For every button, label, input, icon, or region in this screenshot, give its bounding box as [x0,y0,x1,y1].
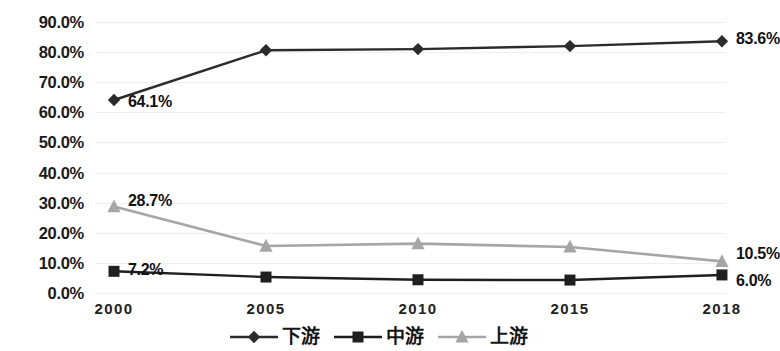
legend-item-label: 上游 [490,327,528,346]
gridline [96,52,726,53]
y-axis-tick-label: 40.0% [39,163,84,182]
y-axis-tick-label: 90.0% [39,13,84,32]
x-axis-tick-label: 2010 [398,300,437,317]
gridline [96,263,726,264]
y-axis-tick-label: 20.0% [39,223,84,242]
triangle-marker-icon [436,328,488,346]
gridline [96,112,726,113]
x-axis-tick-label: 2005 [246,300,285,317]
square-marker-icon [332,328,384,346]
legend-item-square[interactable]: 中游 [332,327,424,346]
legend-item-diamond[interactable]: 下游 [228,327,320,346]
data-point-label: 64.1% [128,93,172,111]
gridline [96,233,726,234]
y-axis-tick-label: 0.0% [48,284,84,303]
data-point-label: 83.6% [736,30,780,48]
gridline [96,142,726,143]
legend-item-label: 下游 [282,327,320,346]
chart-gridlines [96,22,726,293]
data-point-label: 10.5% [736,245,780,263]
y-axis-tick-label: 10.0% [39,253,84,272]
legend-item-triangle[interactable]: 上游 [436,327,528,346]
y-axis-tick-label: 60.0% [39,103,84,122]
x-axis-labels: 20002005201020152018 [96,298,726,322]
y-axis-tick-label: 80.0% [39,43,84,62]
gridline [96,203,726,204]
data-point-label: 28.7% [128,192,172,210]
gridline [96,22,726,23]
y-axis-tick-label: 50.0% [39,133,84,152]
chart-legend: 下游中游上游 [0,322,755,351]
data-point-label: 7.2% [128,261,163,279]
legend-item-label: 中游 [386,327,424,346]
gridline [96,173,726,174]
gridline [96,82,726,83]
x-axis-tick-label: 2000 [95,300,134,317]
y-axis-tick-label: 70.0% [39,73,84,92]
y-axis-labels: 90.0%80.0%70.0%60.0%50.0%40.0%30.0%20.0%… [0,0,88,293]
x-axis-tick-label: 2015 [550,300,589,317]
diamond-marker-icon [228,328,280,346]
gridline [96,293,726,294]
y-axis-tick-label: 30.0% [39,193,84,212]
x-axis-tick-label: 2018 [702,300,741,317]
data-point-label: 6.0% [736,272,771,290]
